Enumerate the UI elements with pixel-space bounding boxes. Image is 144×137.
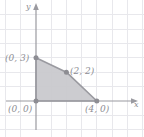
point-label-4-0: (4, 0) — [85, 105, 109, 114]
vertex-dot-2-2 — [64, 70, 69, 75]
point-label-2-2: (2, 2) — [70, 67, 94, 76]
point-label-0-0: (0, 0) — [8, 105, 32, 114]
vertex-dot-0-3 — [34, 55, 39, 60]
vertex-dot-origin — [34, 99, 39, 104]
y-axis-label: y — [26, 3, 31, 11]
x-axis-label: x — [134, 101, 139, 109]
vertex-dot-4-0 — [94, 99, 99, 104]
point-label-0-3: (0, 3) — [5, 54, 29, 63]
coordinate-plane-figure: (0, 3) (2, 2) (0, 0) (4, 0) x y — [0, 0, 144, 137]
y-axis-arrowhead — [33, 3, 39, 10]
